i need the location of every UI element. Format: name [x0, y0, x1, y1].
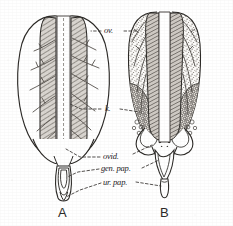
panel-caption-a: A: [58, 206, 67, 219]
label-oviduct: ovid.: [103, 152, 119, 161]
label-kidney: k.: [105, 104, 111, 113]
panel-a-urinary-papilla: [61, 170, 67, 188]
label-genital-papilla: gen. pap.: [101, 164, 131, 173]
label-ovary: ov.: [104, 26, 113, 35]
label-urinary-papilla: ur. pap.: [103, 178, 127, 187]
panel-caption-b: B: [160, 206, 169, 219]
panel-b-median-groove: [159, 12, 170, 142]
anatomical-figure-plate: [0, 0, 233, 226]
